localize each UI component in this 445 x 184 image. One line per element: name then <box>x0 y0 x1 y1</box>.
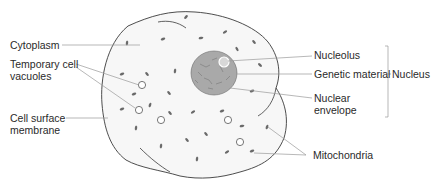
label-cell-surface-membrane: Cell surface membrane <box>10 112 65 136</box>
label-nucleolus: Nucleolus <box>314 49 360 61</box>
label-cytoplasm: Cytoplasm <box>10 39 60 51</box>
label-nuclear-envelope: Nuclear envelope <box>314 92 357 116</box>
nucleolus-shape <box>219 57 229 67</box>
label-mitochondria: Mitochondria <box>313 149 373 161</box>
label-genetic-material: Genetic material <box>314 68 390 80</box>
label-temporary-cell-vacuoles: Temporary cell vacuoles <box>10 58 78 82</box>
nucleus <box>191 51 237 95</box>
animal-cell-diagram <box>0 0 445 184</box>
label-nucleus: Nucleus <box>392 68 430 80</box>
